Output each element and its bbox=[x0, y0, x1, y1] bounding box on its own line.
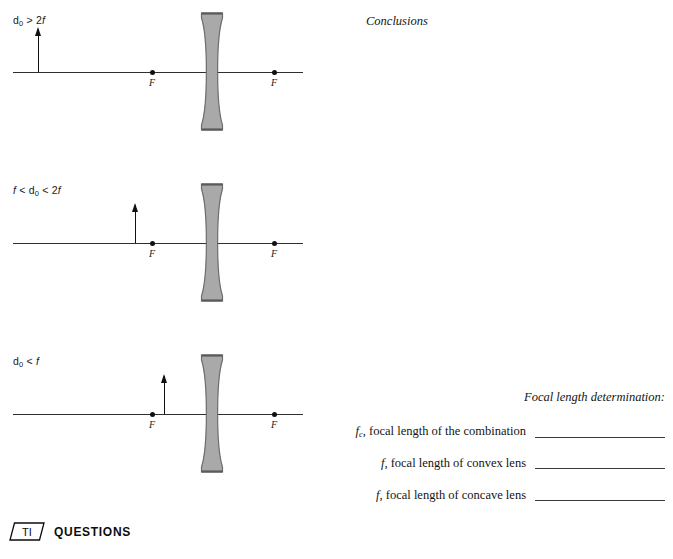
focal-point-right-label: F bbox=[271, 248, 277, 259]
focal-row-concave-label: f, focal length of concave lens bbox=[376, 489, 526, 503]
ray-diagram-do-gt-2f: d0 > 2f F F bbox=[0, 0, 340, 170]
focal-row-convex: f, focal length of convex lens bbox=[381, 457, 665, 471]
focal-point-right-dot bbox=[272, 70, 277, 75]
worksheet-page: Conclusions d0 > 2f F F f < d0 < 2f F F bbox=[0, 0, 673, 559]
focal-point-left-dot bbox=[150, 412, 155, 417]
object-arrow-head bbox=[132, 203, 138, 212]
focal-point-right-dot bbox=[272, 412, 277, 417]
ray-diagram-do-lt-f: d0 < f F F bbox=[0, 340, 340, 510]
focal-point-left-label: F bbox=[149, 248, 155, 259]
case-label-do-gt-2f: d0 > 2f bbox=[13, 14, 45, 28]
concave-lens bbox=[199, 12, 225, 131]
focal-row-convex-blank[interactable] bbox=[535, 468, 665, 469]
principal-axis bbox=[13, 72, 303, 73]
conclusions-heading: Conclusions bbox=[366, 14, 428, 29]
ray-diagram-f-lt-do-lt-2f: f < d0 < 2f F F bbox=[0, 170, 340, 340]
principal-axis bbox=[13, 243, 303, 244]
focal-row-combination: fc, focal length of the combination bbox=[356, 425, 665, 440]
focal-length-determination-title: Focal length determination: bbox=[524, 390, 665, 405]
principal-axis bbox=[13, 414, 303, 415]
focal-row-convex-label: f, focal length of convex lens bbox=[381, 457, 526, 471]
case-label-f-lt-do-lt-2f: f < d0 < 2f bbox=[13, 184, 61, 198]
object-arrow-head bbox=[161, 374, 167, 383]
ti-logo-badge: TI bbox=[9, 522, 45, 541]
focal-row-combination-blank[interactable] bbox=[535, 437, 665, 438]
focal-point-right-label: F bbox=[271, 77, 277, 88]
concave-lens bbox=[199, 354, 225, 473]
case-label-do-lt-f: d0 < f bbox=[13, 355, 39, 369]
focal-row-combination-label: fc, focal length of the combination bbox=[356, 425, 526, 440]
focal-point-right-label: F bbox=[271, 419, 277, 430]
focal-point-right-dot bbox=[272, 241, 277, 246]
ti-badge-text: TI bbox=[22, 526, 32, 538]
focal-row-concave-blank[interactable] bbox=[535, 500, 665, 501]
focal-row-concave: f, focal length of concave lens bbox=[376, 489, 665, 503]
focal-point-left-dot bbox=[150, 241, 155, 246]
focal-point-left-label: F bbox=[149, 419, 155, 430]
questions-section-header: TI QUESTIONS bbox=[9, 522, 131, 541]
questions-heading: QUESTIONS bbox=[54, 525, 131, 539]
focal-point-left-label: F bbox=[149, 77, 155, 88]
focal-point-left-dot bbox=[150, 70, 155, 75]
concave-lens bbox=[199, 183, 225, 302]
object-arrow-head bbox=[35, 27, 41, 36]
